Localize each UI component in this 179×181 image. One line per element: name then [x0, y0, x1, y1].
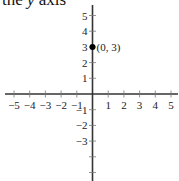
y-tick-label: 2 — [82, 57, 88, 69]
data-points: (0, 3) — [90, 41, 121, 54]
coordinate-plane: −5−4−3−2−11234554321−1−2−3 (0, 3) — [0, 0, 179, 181]
y-tick-label: 5 — [82, 10, 88, 22]
data-point — [90, 44, 96, 50]
x-tick-label: 5 — [168, 99, 174, 111]
y-tick-label: 4 — [82, 25, 88, 37]
y-tick-label: −2 — [76, 119, 88, 131]
y-tick-label: 1 — [82, 72, 88, 84]
x-tick-label: 4 — [153, 99, 159, 111]
x-tick-label: −5 — [8, 99, 20, 111]
x-tick-label: 3 — [137, 99, 143, 111]
x-tick-label: 1 — [105, 99, 111, 111]
x-tick-label: −2 — [55, 99, 67, 111]
x-tick-label: 2 — [121, 99, 127, 111]
y-tick-label: 3 — [82, 41, 88, 53]
x-tick-label: −3 — [40, 99, 52, 111]
point-label: (0, 3) — [97, 41, 121, 54]
x-tick-label: −4 — [24, 99, 36, 111]
y-tick-label: −1 — [76, 104, 88, 116]
y-tick-label: −3 — [76, 135, 88, 147]
